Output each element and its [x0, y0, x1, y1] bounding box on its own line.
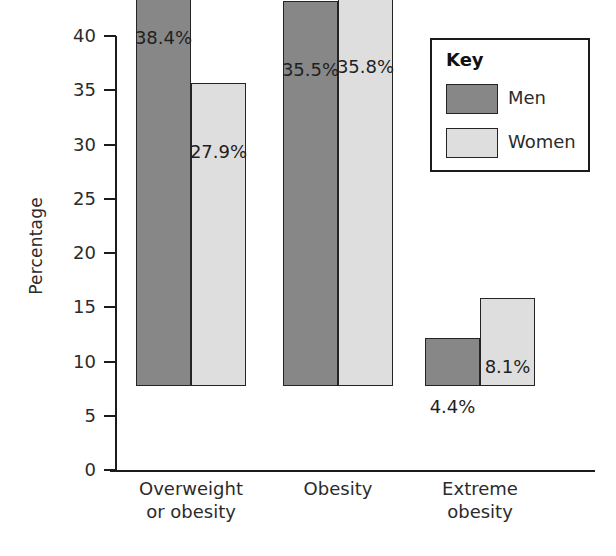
- category-label-1: Obesity: [258, 478, 418, 501]
- category-label-line2: or obesity: [111, 501, 271, 524]
- category-label-line1: Extreme: [442, 478, 518, 499]
- bar-women-0: [191, 83, 246, 386]
- category-label-2: Extremeobesity: [400, 478, 560, 523]
- legend-swatch-women: [446, 128, 498, 158]
- legend-swatch-men: [446, 84, 498, 114]
- legend-title: Key: [446, 49, 484, 70]
- legend-label-women: Women: [508, 131, 576, 152]
- category-label-line1: Obesity: [304, 478, 373, 499]
- bar-value-label-men-0: 38.4%: [127, 29, 200, 47]
- legend-label-men: Men: [508, 87, 546, 108]
- bar-men-0: [136, 0, 191, 386]
- bar-chart: Percentage 4035302520151050 38.4%27.9%35…: [0, 0, 616, 556]
- bar-value-label-women-0: 27.9%: [182, 143, 255, 161]
- bar-value-label-women-2: 8.1%: [471, 358, 544, 376]
- category-label-line1: Overweight: [139, 478, 243, 499]
- legend-box: Key Men Women: [430, 38, 590, 172]
- bar-value-label-women-1: 35.8%: [329, 58, 402, 76]
- bar-value-label-men-2: 4.4%: [416, 398, 489, 416]
- category-label-0: Overweightor obesity: [111, 478, 271, 523]
- category-label-line2: obesity: [400, 501, 560, 524]
